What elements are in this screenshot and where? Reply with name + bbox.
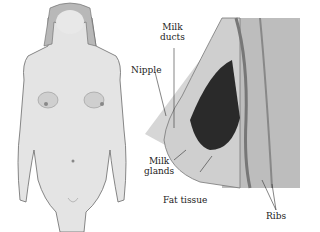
label-nipple: Nipple [131, 65, 161, 75]
label-milk-glands: Milk glands [144, 156, 174, 176]
label-ribs: Ribs [266, 211, 286, 221]
breast-cross-section [164, 18, 300, 188]
anatomy-figure: Milk ducts Nipple Milk glands Fat tissue… [0, 0, 320, 232]
label-milk-ducts: Milk ducts [160, 22, 185, 42]
label-fat-tissue: Fat tissue [163, 195, 207, 205]
female-torso-figure [18, 3, 126, 232]
